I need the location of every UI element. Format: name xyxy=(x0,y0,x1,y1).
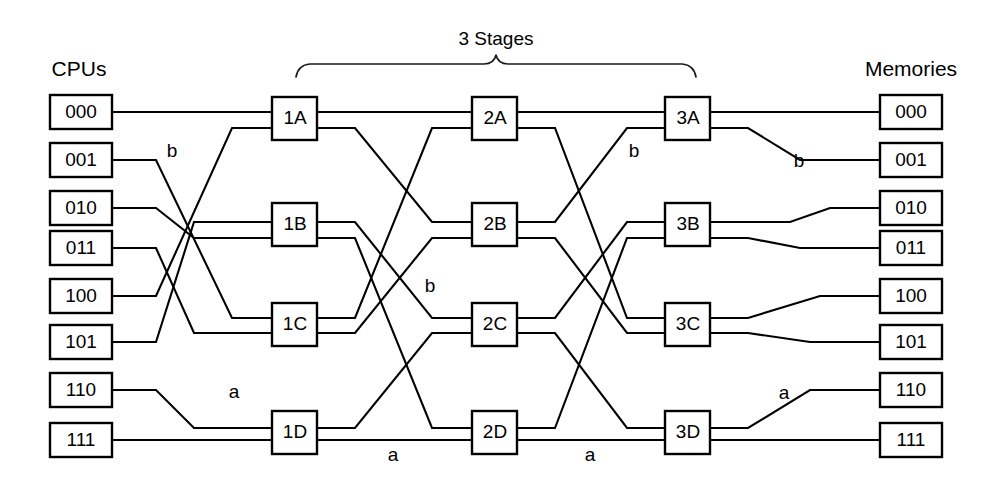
wire-cpu110-to-1D xyxy=(112,390,272,428)
cpu-box-100-label: 100 xyxy=(65,285,97,306)
memory-box-110-label: 110 xyxy=(896,379,926,400)
cpu-box-001[interactable]: 001 xyxy=(50,143,112,177)
memory-box-100[interactable]: 100 xyxy=(880,279,942,313)
memory-box-010[interactable]: 010 xyxy=(880,191,942,225)
cpu-box-001-label: 001 xyxy=(65,149,97,170)
memory-box-001[interactable]: 001 xyxy=(880,143,942,177)
cpu-box-000-label: 000 xyxy=(65,101,97,122)
cpus-header-label: CPUs xyxy=(52,57,107,80)
memory-box-110[interactable]: 110 xyxy=(880,373,942,407)
switch-1D[interactable]: 1D xyxy=(272,411,317,454)
switch-3D-label: 3D xyxy=(676,421,700,442)
memory-box-010-label: 010 xyxy=(895,197,927,218)
switch-3B[interactable]: 3B xyxy=(665,203,710,246)
switch-2B-label: 2B xyxy=(483,213,506,234)
switch-2A-label: 2A xyxy=(483,107,507,128)
stages-header-label: 3 Stages xyxy=(459,28,534,49)
path-label-b-cpu-to-stage1: b xyxy=(167,140,178,161)
wire-3B-to-mem011 xyxy=(710,238,880,248)
wire-2C-to-3B xyxy=(517,222,665,318)
path-label-a-stage2-to-stage3: a xyxy=(585,444,596,465)
wire-cpu011-to-1C xyxy=(112,248,272,333)
wire-3D-to-mem110 xyxy=(710,390,880,428)
wire-cpu100-to-1A xyxy=(112,128,272,296)
memory-box-000[interactable]: 000 xyxy=(880,95,942,129)
cpu-box-010[interactable]: 010 xyxy=(50,191,112,225)
switch-2A[interactable]: 2A xyxy=(472,97,517,140)
memory-column: 000 001 010 011 100 101 110 111 xyxy=(880,95,942,457)
memory-box-101-label: 101 xyxy=(895,331,927,352)
switch-1A[interactable]: 1A xyxy=(272,97,317,140)
switch-2C[interactable]: 2C xyxy=(472,303,517,346)
wires-stage1-to-stage2 xyxy=(317,112,472,440)
memory-box-000-label: 000 xyxy=(895,101,927,122)
switch-1B[interactable]: 1B xyxy=(272,203,317,246)
switch-1D-label: 1D xyxy=(283,421,307,442)
switch-2D[interactable]: 2D xyxy=(472,411,517,454)
switch-3C[interactable]: 3C xyxy=(665,303,710,346)
stage1-switch-column: 1A 1B 1C 1D xyxy=(272,97,317,454)
cpu-box-100[interactable]: 100 xyxy=(50,279,112,313)
cpu-box-111[interactable]: 111 xyxy=(50,423,112,457)
path-label-b-stage1-to-stage2: b xyxy=(425,275,436,296)
memory-box-011-label: 011 xyxy=(896,237,926,258)
cpu-box-011-label: 011 xyxy=(66,237,96,258)
stages-brace xyxy=(296,55,696,77)
wire-2C-to-3D xyxy=(517,333,665,428)
switch-3C-label: 3C xyxy=(676,313,700,334)
stage2-switch-column: 2A 2B 2C 2D xyxy=(472,97,517,454)
wire-2B-to-3A xyxy=(517,128,665,222)
cpu-box-111-label: 111 xyxy=(67,429,96,450)
cpu-box-110-label: 110 xyxy=(66,379,96,400)
path-label-a-cpu-to-stage1: a xyxy=(229,381,240,402)
path-label-b-stage2-to-stage3: b xyxy=(629,140,640,161)
wire-3C-to-mem101 xyxy=(710,333,880,342)
wire-3B-to-mem010 xyxy=(710,208,880,222)
cpu-box-000[interactable]: 000 xyxy=(50,95,112,129)
wire-cpu101-to-1B xyxy=(112,222,272,342)
memory-box-011[interactable]: 011 xyxy=(880,231,942,265)
switch-3D[interactable]: 3D xyxy=(665,411,710,454)
cpu-box-110[interactable]: 110 xyxy=(50,373,112,407)
path-label-b-stage3-to-memory: b xyxy=(794,150,805,171)
cpu-box-011[interactable]: 011 xyxy=(50,231,112,265)
switch-1B-label: 1B xyxy=(283,213,306,234)
omega-network-diagram: CPUs Memories 3 Stages xyxy=(0,0,1002,486)
path-label-a-stage1-to-stage2: a xyxy=(388,444,399,465)
wires-cpu-to-stage1 xyxy=(112,112,272,440)
switch-1C[interactable]: 1C xyxy=(272,303,317,346)
wire-1B-to-2C xyxy=(317,222,472,318)
wires-stage2-to-stage3 xyxy=(517,112,665,440)
memory-box-111[interactable]: 111 xyxy=(880,423,942,457)
memory-box-111-label: 111 xyxy=(897,429,926,450)
switch-3B-label: 3B xyxy=(676,213,699,234)
switch-2D-label: 2D xyxy=(483,421,507,442)
switch-3A[interactable]: 3A xyxy=(665,97,710,140)
switch-1A-label: 1A xyxy=(283,107,307,128)
memory-box-100-label: 100 xyxy=(895,285,927,306)
stage3-switch-column: 3A 3B 3C 3D xyxy=(665,97,710,454)
switch-2C-label: 2C xyxy=(483,313,507,334)
cpu-box-101-label: 101 xyxy=(65,331,97,352)
wire-1D-to-2C xyxy=(317,333,472,428)
memory-box-101[interactable]: 101 xyxy=(880,325,942,359)
cpu-box-010-label: 010 xyxy=(65,197,97,218)
memories-header-label: Memories xyxy=(865,57,957,80)
wire-1A-to-2B xyxy=(317,128,472,222)
switch-1C-label: 1C xyxy=(283,313,307,334)
switch-3A-label: 3A xyxy=(676,107,700,128)
cpu-column: 000 001 010 011 100 101 110 111 xyxy=(50,95,112,457)
switch-2B[interactable]: 2B xyxy=(472,203,517,246)
cpu-box-101[interactable]: 101 xyxy=(50,325,112,359)
wire-3C-to-mem100 xyxy=(710,296,880,318)
path-label-a-stage3-to-memory: a xyxy=(779,382,790,403)
memory-box-001-label: 001 xyxy=(895,149,927,170)
